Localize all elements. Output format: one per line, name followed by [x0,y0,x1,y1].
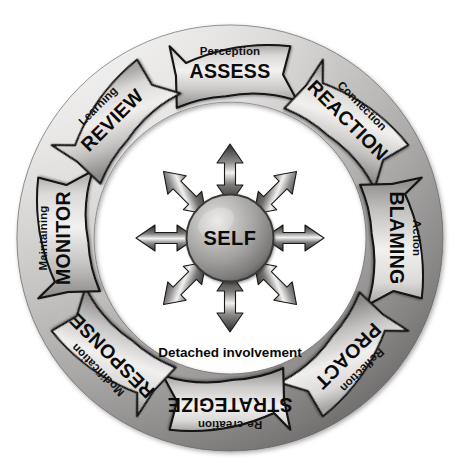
cycle-diagram-canvas: Perception ASSESS Connection REACTION Ac… [0,0,462,475]
cycle-diagram: Perception ASSESS Connection REACTION Ac… [0,0,462,475]
caption-detached-involvement: Detached involvement [158,345,302,360]
label-assess-main: ASSESS [190,60,271,82]
label-assess-sub: Perception [200,45,260,57]
center-sphere[interactable]: SELF [187,195,274,282]
center-label: SELF [203,227,256,249]
label-blaming-sub: Action [411,220,423,256]
label-strategize-sub: Re-creation [198,419,262,431]
label-strategize-main: STRATEGIZE [167,394,292,416]
label-assess: Perception ASSESS [190,45,271,82]
label-monitor-main: MONITOR [52,191,74,285]
label-blaming-main: BLAMING [386,191,408,284]
label-monitor-sub: Maintaining [37,206,49,271]
